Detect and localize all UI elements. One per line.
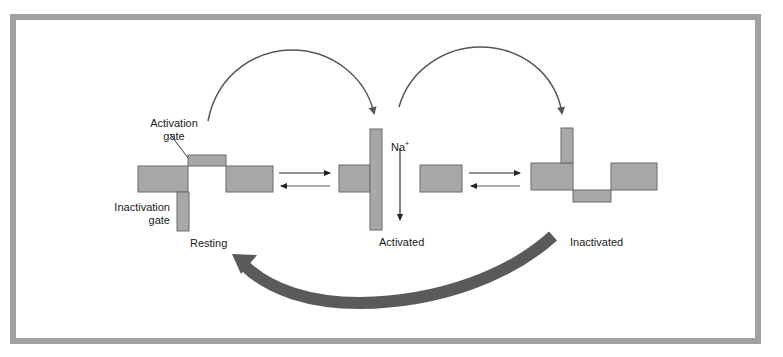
na-ion-label: Na+ bbox=[391, 137, 409, 154]
inactivated-membrane-right bbox=[611, 163, 657, 190]
resting-activation-gate bbox=[188, 155, 226, 166]
activated-membrane-left bbox=[339, 165, 370, 192]
inactivated-activation-gate bbox=[561, 128, 573, 163]
resting-membrane-right bbox=[226, 166, 273, 192]
activated-channel bbox=[339, 129, 382, 230]
activation-gate-label-line1: Activation bbox=[144, 117, 204, 130]
inactivation-gate-label: Inactivation gate bbox=[106, 201, 170, 227]
na-ion-charge: + bbox=[405, 140, 409, 147]
activation-gate-label-line2: gate bbox=[144, 130, 204, 143]
arc-arrow-resting-to-activated bbox=[208, 50, 374, 121]
channel-diagram bbox=[0, 0, 783, 357]
inactivation-gate-label-line1: Inactivation bbox=[106, 201, 170, 214]
activated-gate bbox=[370, 129, 382, 230]
na-ion-symbol: Na bbox=[391, 141, 405, 153]
inactivated-inactivation-gate bbox=[573, 190, 611, 202]
state-label-inactivated: Inactivated bbox=[570, 236, 623, 249]
middle-membrane-block bbox=[420, 165, 462, 192]
activation-gate-label: Activation gate bbox=[144, 117, 204, 143]
inactivation-gate-label-line2: gate bbox=[106, 214, 170, 227]
resting-membrane-left bbox=[138, 166, 188, 192]
inactivated-channel bbox=[531, 128, 657, 202]
resting-inactivation-gate bbox=[177, 192, 189, 231]
state-label-resting: Resting bbox=[190, 237, 227, 250]
inactivated-membrane-left bbox=[531, 163, 573, 190]
arc-arrow-activated-to-inactivated bbox=[399, 47, 562, 113]
state-label-activated: Activated bbox=[379, 236, 424, 249]
